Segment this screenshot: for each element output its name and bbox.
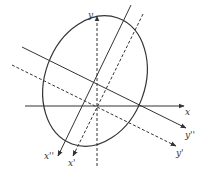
axis-y1-label: y' xyxy=(175,148,184,158)
rotated-ellipse xyxy=(25,1,165,161)
axes-group xyxy=(12,5,186,166)
axis-x1-label: x' xyxy=(68,158,76,168)
axis-x2-label: x'' xyxy=(44,151,54,161)
axis-x1-line xyxy=(73,14,143,156)
axis-x2-line xyxy=(58,5,131,156)
axis-y2-label: y'' xyxy=(184,130,195,140)
axis-x-label: x xyxy=(185,107,190,117)
axis-y-label: y xyxy=(87,10,94,20)
coordinate-rotation-diagram: xyx''y''x'y' xyxy=(0,0,199,171)
